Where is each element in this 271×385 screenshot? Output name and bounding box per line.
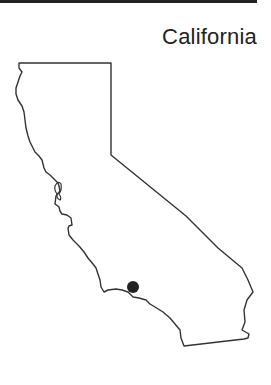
location-marker-icon bbox=[127, 281, 139, 293]
california-map bbox=[0, 0, 271, 385]
state-outline bbox=[16, 63, 253, 346]
